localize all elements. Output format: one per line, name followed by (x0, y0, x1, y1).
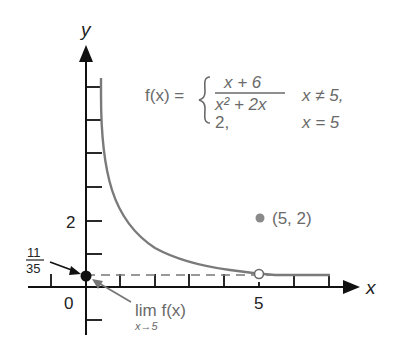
x-axis-label: x (365, 277, 377, 298)
case1-numerator: x + 6 (223, 73, 262, 92)
fraction-11-35: 11 35 (26, 245, 44, 276)
case2-value: 2, (215, 113, 229, 132)
fraction-arrow-icon (69, 266, 81, 275)
case1-denominator: x² + 2x (214, 95, 267, 114)
case1-condition: x ≠ 5, (301, 86, 343, 105)
open-point-hole (255, 270, 264, 279)
y-tick-2-label: 2 (66, 213, 75, 232)
svg-text:11: 11 (27, 245, 41, 260)
origin-label: 0 (64, 294, 73, 313)
y-axis (79, 45, 102, 335)
x-axis-arrow-icon (343, 280, 360, 294)
point-5-2 (256, 214, 265, 223)
limit-subscript: x→5 (134, 320, 159, 332)
limit-graph: (5, 2) 11 35 y x 0 5 2 lim f(x) x→5 f(x)… (0, 0, 399, 348)
brace-icon (199, 77, 210, 123)
y-axis-label: y (79, 19, 92, 40)
formula-lhs: f(x) = (145, 86, 184, 105)
point-label: (5, 2) (272, 209, 312, 228)
limit-label: lim f(x) (135, 301, 186, 320)
x-tick-5-label: 5 (254, 294, 263, 313)
limit-value-point (81, 271, 92, 282)
piecewise-formula: f(x) = x + 6 x² + 2x x ≠ 5, 2, x = 5 (145, 73, 343, 132)
svg-text:35: 35 (26, 261, 40, 276)
case2-condition: x = 5 (301, 113, 340, 132)
x-axis (28, 274, 360, 294)
y-axis-arrow-icon (79, 45, 93, 62)
